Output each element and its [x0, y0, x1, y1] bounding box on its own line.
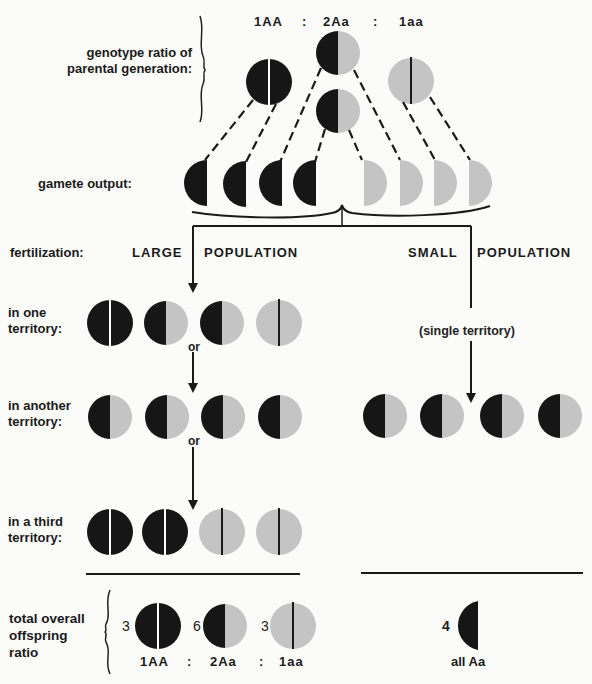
totals-label: total overall offspring ratio: [9, 610, 85, 661]
gamete-label: gamete output:: [38, 176, 132, 192]
branch-lines: [193, 226, 471, 500]
total-count-AA: 3: [122, 618, 130, 634]
large-row-1: [87, 299, 302, 346]
parent-Aa-top: [316, 31, 360, 75]
row-label-3-line1: in a third: [8, 514, 63, 530]
or-label-1: or: [188, 340, 200, 354]
large-row-2: [88, 395, 302, 439]
total-count-aa: 3: [261, 618, 269, 634]
totals-label-line3: ratio: [9, 644, 85, 661]
small-word1: SMALL: [408, 245, 458, 260]
parental-ratio-sep2: :: [373, 14, 378, 29]
parental-ratio-AA: 1AA: [254, 14, 283, 29]
parental-label: genotype ratio of parental generation:: [20, 45, 192, 77]
single-territory-label: (single territory): [419, 324, 515, 338]
total-small-ratio: all Aa: [451, 654, 485, 669]
total-ratio-Aa: 2Aa: [210, 654, 237, 669]
small-row: [363, 394, 582, 438]
row-label-2-line2: territory:: [8, 414, 71, 430]
total-aa: [270, 602, 316, 649]
row-label-2-line1: in another: [8, 398, 71, 414]
total-count-Aa: 6: [193, 618, 201, 634]
total-ratio-sep2: :: [259, 654, 264, 669]
total-Aa: [203, 604, 247, 648]
small-word2: POPULATION: [477, 245, 571, 260]
or-label-2: or: [188, 434, 200, 448]
parent-AA: [246, 59, 292, 105]
gamete-brace: [192, 205, 490, 226]
parental-ratio-Aa: 2Aa: [323, 14, 350, 29]
row-label-1: in one territory:: [8, 305, 62, 337]
totals-brace: [105, 590, 110, 674]
parental-ratio-aa: 1aa: [399, 14, 424, 29]
large-word2: POPULATION: [204, 245, 298, 260]
totals-label-line1: total overall: [9, 610, 85, 627]
row-label-1-line2: territory:: [8, 321, 62, 337]
total-ratio-aa: 1aa: [279, 654, 304, 669]
total-small-A: [458, 601, 478, 650]
diagram-canvas: [0, 0, 592, 684]
totals-label-line2: offspring: [9, 627, 85, 644]
parent-aa: [388, 57, 434, 104]
row-label-3: in a third territory:: [8, 514, 63, 546]
parental-brace: [200, 16, 205, 122]
row-label-1-line1: in one: [8, 305, 62, 321]
total-ratio-AA: 1AA: [140, 654, 169, 669]
parental-label-line1: genotype ratio of: [20, 45, 192, 61]
parent-Aa-bottom: [316, 89, 360, 133]
large-row-3: [87, 508, 302, 555]
parental-ratio-sep1: :: [302, 14, 307, 29]
row-label-3-line2: territory:: [8, 530, 63, 546]
total-ratio-sep1: :: [187, 654, 192, 669]
parental-label-line2: parental generation:: [20, 61, 192, 77]
total-small-count: 4: [442, 618, 450, 634]
total-AA: [135, 603, 181, 649]
fertilization-label: fertilization:: [10, 245, 84, 261]
gamete-row: [184, 160, 492, 207]
large-word1: LARGE: [132, 245, 183, 260]
row-label-2: in another territory:: [8, 398, 71, 430]
